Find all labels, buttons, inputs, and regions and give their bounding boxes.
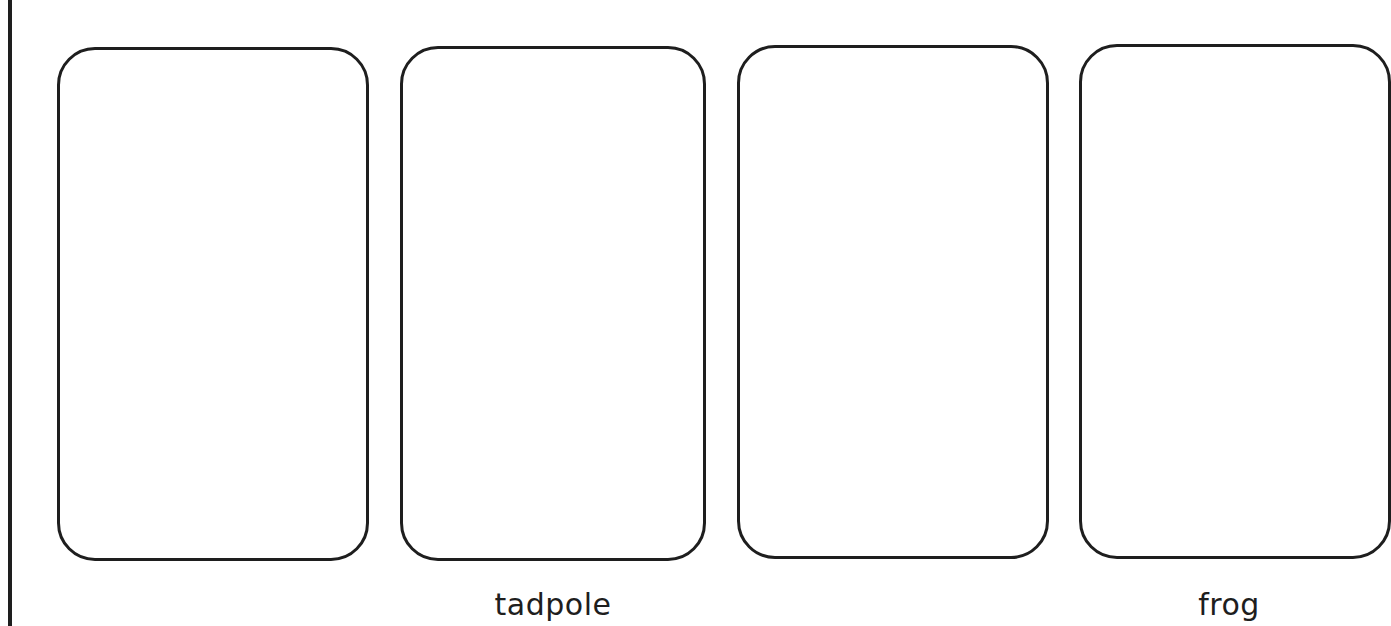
card-4-label: frog — [1079, 590, 1379, 620]
card-2-label: tadpole — [400, 590, 706, 620]
sequence-card-2[interactable] — [400, 46, 706, 561]
sequence-card-3[interactable] — [737, 45, 1049, 559]
page-border-left — [8, 0, 12, 626]
sequence-card-1[interactable] — [57, 47, 369, 561]
sequence-card-4[interactable] — [1079, 44, 1391, 559]
